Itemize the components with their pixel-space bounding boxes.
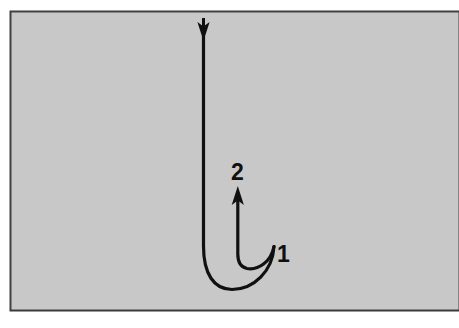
hook-direction-label-2: 2 bbox=[231, 159, 244, 185]
fish-hook-illustration: 1 2 bbox=[0, 0, 459, 328]
figure-root: 1 2 bbox=[0, 0, 459, 328]
hook-point-label-1: 1 bbox=[277, 241, 290, 267]
